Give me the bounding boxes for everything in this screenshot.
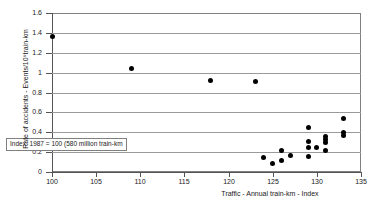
gridline xyxy=(52,53,361,54)
gridline xyxy=(52,112,361,113)
data-point xyxy=(306,139,311,144)
y-tick xyxy=(46,132,52,133)
x-tick xyxy=(52,172,53,177)
x-tick xyxy=(361,172,362,177)
x-tick xyxy=(140,172,141,177)
x-tick xyxy=(317,172,318,177)
x-tick-label: 130 xyxy=(302,178,332,185)
gridline xyxy=(52,132,361,133)
gridline xyxy=(52,152,361,153)
data-point xyxy=(253,79,258,84)
x-tick xyxy=(96,172,97,177)
x-tick-label: 105 xyxy=(81,178,111,185)
y-axis-title: Rate of accidents - Events/10⁶train-km xyxy=(22,9,30,169)
x-axis-title: Traffic - Annual train-km - Index xyxy=(160,190,380,198)
data-point xyxy=(306,145,311,150)
y-tick xyxy=(46,73,52,74)
y-tick xyxy=(46,53,52,54)
x-tick-label: 125 xyxy=(258,178,288,185)
y-tick-label: 0 xyxy=(2,168,42,175)
gridline xyxy=(52,73,361,74)
data-point xyxy=(288,153,293,158)
x-tick-label: 100 xyxy=(37,178,67,185)
x-tick-label: 120 xyxy=(214,178,244,185)
data-point xyxy=(341,130,346,135)
data-point xyxy=(323,134,328,139)
data-point xyxy=(341,116,346,121)
gridline xyxy=(52,33,361,34)
x-tick xyxy=(273,172,274,177)
data-point xyxy=(306,154,311,159)
y-tick xyxy=(46,13,52,14)
scatter-chart: 00.20.40.60.811.21.41.6 1001051101151201… xyxy=(0,0,386,206)
y-tick xyxy=(46,152,52,153)
data-point xyxy=(50,34,55,39)
x-axis-line xyxy=(52,172,362,173)
data-point xyxy=(279,148,284,153)
x-tick-label: 110 xyxy=(125,178,155,185)
x-tick-label: 115 xyxy=(169,178,199,185)
y-tick xyxy=(46,112,52,113)
data-point xyxy=(306,125,311,130)
y-tick xyxy=(46,93,52,94)
data-point xyxy=(279,158,284,163)
x-tick-label: 135 xyxy=(346,178,376,185)
x-tick xyxy=(184,172,185,177)
gridline xyxy=(52,93,361,94)
x-tick xyxy=(229,172,230,177)
